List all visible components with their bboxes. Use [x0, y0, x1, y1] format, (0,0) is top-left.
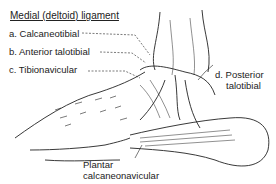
- label-anterior-talotibial: b. Anterior talotibial: [9, 46, 90, 57]
- ankle-ligament-diagram: Medial (deltoid) ligament a. Calcaneotib…: [0, 0, 276, 184]
- label-plantar-1: Plantar: [83, 159, 113, 170]
- label-tibionavicular: c. Tibionavicular: [9, 64, 77, 75]
- label-calcaneotibial: a. Calcaneotibial: [9, 28, 79, 39]
- diagram-title: Medial (deltoid) ligament: [10, 10, 119, 21]
- label-plantar-2: calcaneonavicular: [83, 170, 159, 181]
- label-posterior-talotibial-1: d. Posterior: [215, 69, 264, 80]
- label-posterior-talotibial-2: talotibial: [226, 80, 261, 91]
